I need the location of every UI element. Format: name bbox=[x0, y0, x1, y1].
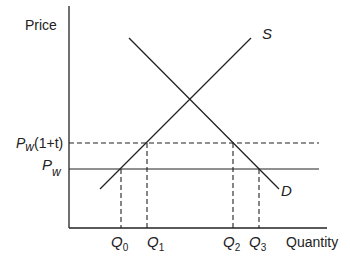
supply-label: S bbox=[262, 25, 272, 42]
q0-label: Q0 bbox=[111, 233, 129, 253]
q1-label: Q1 bbox=[147, 233, 165, 253]
tariff-price-label: Pw(1+t) bbox=[16, 135, 63, 154]
world-price-label: Pw bbox=[42, 156, 62, 179]
y-axis-label: Price bbox=[25, 17, 57, 33]
tariff-diagram: Price Quantity S D Pw(1+t) Pw Q0 Q1 Q2 Q… bbox=[0, 0, 350, 262]
demand-label: D bbox=[281, 182, 292, 199]
demand-curve bbox=[129, 38, 279, 189]
q3-label: Q3 bbox=[249, 233, 267, 253]
supply-curve bbox=[100, 38, 251, 189]
q2-label: Q2 bbox=[223, 233, 241, 253]
x-axis-label: Quantity bbox=[286, 234, 338, 250]
